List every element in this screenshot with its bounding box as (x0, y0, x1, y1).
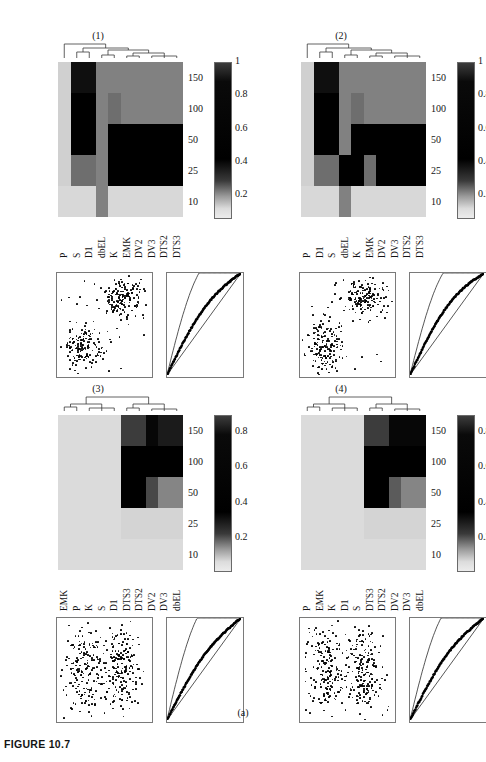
scatter-point (370, 307, 372, 309)
scatter-point (320, 683, 322, 685)
scatter-point (388, 706, 390, 708)
x-axis-label: DV2 (147, 575, 157, 611)
y-tick-label: 50 (188, 134, 198, 145)
heatmap-cell (108, 62, 121, 93)
scatter-point (67, 355, 69, 357)
x-axis-label: DTS3 (365, 575, 375, 611)
heatmap-cell (389, 446, 402, 477)
scatter-point (107, 331, 109, 333)
scatter-point (111, 657, 113, 659)
scatter-point (120, 319, 122, 321)
heatmap-cell (133, 539, 146, 570)
scatter-point (367, 301, 369, 303)
scatter-point (93, 667, 95, 669)
scatter-point (88, 700, 90, 702)
heatmap-cell (414, 508, 427, 539)
scatter-point (102, 358, 104, 360)
heatmap-cell (401, 124, 414, 155)
scatter-point (327, 651, 329, 653)
scatter-point (119, 336, 121, 338)
scatter-point (144, 290, 146, 292)
heatmap-cell (314, 415, 327, 446)
scatter-point (95, 690, 97, 692)
scatter-point (326, 688, 328, 690)
scatter-point (319, 346, 321, 348)
x-axis-label: EMK (59, 575, 69, 611)
scatter-point (366, 297, 368, 299)
scatter-point (315, 353, 317, 355)
heatmap-cell (326, 415, 339, 446)
heatmap-cell (401, 155, 414, 186)
scatter-point (339, 298, 341, 300)
scatter-point (103, 683, 105, 685)
colorbar-tick-label: 0.4 (478, 496, 486, 507)
scatter-point (81, 674, 83, 676)
scatter-point (337, 680, 339, 682)
scatter-point (323, 695, 325, 697)
scatter-point (318, 698, 320, 700)
scatter-point (358, 629, 360, 631)
heatmap-cell (314, 62, 327, 93)
scatter-point (120, 705, 122, 707)
heatmap-cell (364, 124, 377, 155)
scatter-point (60, 675, 62, 677)
heatmap-cell (326, 539, 339, 570)
heatmap-cell (171, 477, 184, 508)
scatter-point (362, 307, 364, 309)
scatter-point (313, 654, 315, 656)
colorbar-tick-label: 0.8 (478, 88, 486, 99)
y-tick-label: 50 (431, 134, 441, 145)
scatter-point (322, 363, 324, 365)
scatter-point (311, 350, 313, 352)
scatter-point (97, 338, 99, 340)
scatter-plot-1 (56, 272, 153, 378)
heatmap-cell (364, 508, 377, 539)
scatter-point (365, 669, 367, 671)
x-axis-label: P (59, 222, 69, 258)
y-tick-label: 150 (431, 72, 446, 83)
scatter-point (345, 664, 347, 666)
scatter-point (75, 703, 77, 705)
scatter-point (356, 699, 358, 701)
scatter-point (122, 673, 124, 675)
heatmap-cell (121, 539, 134, 570)
scatter-point (84, 692, 86, 694)
heatmap-cell (133, 415, 146, 446)
scatter-point (124, 286, 126, 288)
heatmap-cell (146, 155, 159, 186)
scatter-point (99, 658, 101, 660)
scatter-point (369, 681, 371, 683)
heatmap-cell (171, 446, 184, 477)
scatter-point (76, 303, 78, 305)
y-tick-label: 50 (431, 487, 441, 498)
scatter-point (105, 640, 107, 642)
heatmap-cell (389, 508, 402, 539)
heatmap-cell (401, 477, 414, 508)
scatter-point (342, 345, 344, 347)
heatmap-cell (401, 446, 414, 477)
scatter-point (93, 321, 95, 323)
scatter-point (108, 370, 110, 372)
heatmap-cell (71, 539, 84, 570)
heatmap-cell (83, 186, 96, 217)
heatmap-cell (389, 477, 402, 508)
scatter-point (338, 338, 340, 340)
x-axis-label: K (84, 575, 94, 611)
scatter-point (340, 331, 342, 333)
heatmap-cell (108, 446, 121, 477)
scatter-point (122, 641, 124, 643)
dendrogram-2 (301, 40, 426, 60)
scatter-point (327, 686, 329, 688)
scatter-point (368, 625, 370, 627)
scatter-point (366, 293, 368, 295)
scatter-point (352, 686, 354, 688)
y-tick-label: 50 (188, 487, 198, 498)
scatter-point (88, 341, 90, 343)
heatmap-cell (96, 539, 109, 570)
scatter-point (379, 301, 381, 303)
scatter-point (77, 686, 79, 688)
heatmap-4 (301, 415, 426, 570)
scatter-point (124, 311, 126, 313)
scatter-point (374, 694, 376, 696)
scatter-point (121, 303, 123, 305)
